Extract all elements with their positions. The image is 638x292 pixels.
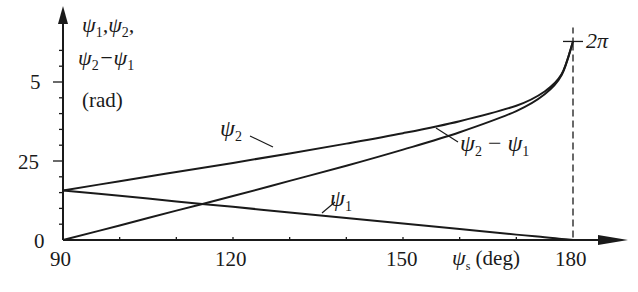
y-axis-arrow-icon	[58, 6, 68, 24]
curve-label-psi2-minus-psi1: ψ2 − ψ1	[460, 130, 529, 160]
psi1-curve	[63, 190, 573, 240]
psi2-minus-psi1-leader-line	[436, 128, 458, 142]
two-pi-label: 2π	[586, 28, 608, 54]
x-axis-arrow-icon	[598, 235, 628, 245]
x-tick-label-150: 150	[386, 247, 418, 272]
y-axis-unit: (rad)	[82, 88, 123, 113]
y-tick-label-5: 5	[30, 70, 41, 95]
chart-canvas	[0, 0, 638, 292]
y-tick-label-0: 0	[34, 229, 45, 254]
psi2-leader-line	[250, 136, 273, 147]
x-tick-label-90: 90	[50, 247, 71, 272]
curve-label-psi2: ψ2	[220, 115, 242, 145]
psi2-curve	[63, 42, 573, 191]
y-axis-title-line1: ψ1,ψ2,	[82, 12, 134, 41]
curve-label-psi1: ψ1	[330, 185, 352, 215]
x-tick-label-180: 180	[555, 247, 587, 272]
x-axis-title: ψs (deg)	[452, 245, 520, 274]
y-tick-label-25: 25	[18, 150, 39, 175]
y-axis-title-line2: ψ2−ψ1	[78, 45, 134, 74]
x-tick-label-120: 120	[215, 247, 247, 272]
